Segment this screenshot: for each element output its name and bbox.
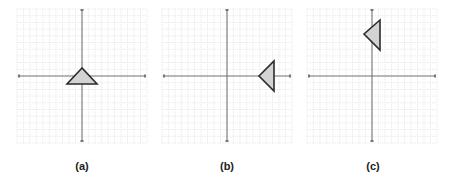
grid-c bbox=[307, 9, 437, 143]
panel-c: (c) bbox=[0, 0, 150, 185]
grid-b bbox=[162, 9, 292, 143]
coordinate-plane-c bbox=[0, 0, 453, 155]
panel-label-b: (b) bbox=[207, 160, 247, 172]
triangle-b bbox=[259, 61, 274, 91]
triangle-c bbox=[364, 20, 380, 50]
panel-label-c: (c) bbox=[353, 160, 393, 172]
